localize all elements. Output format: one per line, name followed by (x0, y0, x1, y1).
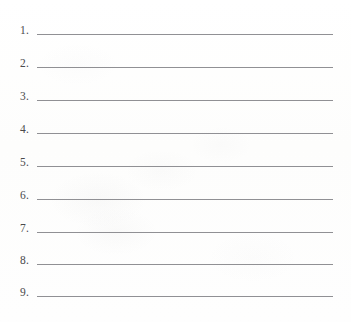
answer-line-5[interactable] (37, 166, 333, 167)
list-item: 6. (20, 187, 333, 201)
list-item: 3. (20, 88, 333, 102)
list-item: 5. (20, 154, 333, 168)
list-item: 9. (20, 284, 333, 298)
row-number-3: 3. (20, 90, 37, 102)
row-number-2: 2. (20, 57, 37, 69)
answer-line-9[interactable] (37, 296, 333, 297)
answer-line-7[interactable] (37, 232, 333, 233)
row-number-6: 6. (20, 189, 37, 201)
answer-line-2[interactable] (37, 67, 333, 68)
row-number-5: 5. (20, 156, 37, 168)
row-number-1: 1. (20, 24, 37, 36)
list-item: 8. (20, 252, 333, 266)
worksheet-page: 1. 2. 3. 4. 5. 6. 7. 8. (0, 0, 351, 322)
numbered-lines-list: 1. 2. 3. 4. 5. 6. 7. 8. (0, 0, 351, 322)
answer-line-4[interactable] (37, 133, 333, 134)
answer-line-6[interactable] (37, 199, 333, 200)
answer-line-1[interactable] (37, 34, 333, 35)
row-number-9: 9. (20, 286, 37, 298)
row-number-7: 7. (20, 222, 37, 234)
list-item: 7. (20, 220, 333, 234)
row-number-4: 4. (20, 123, 37, 135)
list-item: 4. (20, 121, 333, 135)
answer-line-8[interactable] (37, 264, 333, 265)
list-item: 1. (20, 22, 333, 36)
row-number-8: 8. (20, 254, 37, 266)
answer-line-3[interactable] (37, 100, 333, 101)
list-item: 2. (20, 55, 333, 69)
